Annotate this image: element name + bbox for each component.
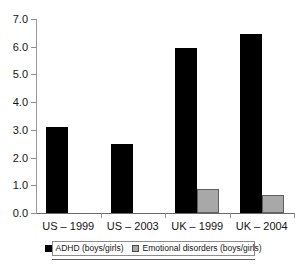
x-axis-category-label: US – 2003 bbox=[101, 220, 166, 232]
grey-square-icon bbox=[132, 245, 139, 252]
y-axis-tick-label: 1.0 bbox=[0, 180, 28, 191]
y-axis-tick-label: 5.0 bbox=[0, 69, 28, 80]
bar-adhd bbox=[46, 127, 68, 213]
black-square-icon bbox=[45, 245, 52, 252]
x-axis-tick bbox=[294, 213, 295, 218]
x-axis-category-label: UK – 1999 bbox=[165, 220, 230, 232]
footer-rule bbox=[52, 259, 255, 260]
legend-entry-emotional-disorders: Emotional disorders (boys/girls) bbox=[132, 244, 261, 253]
bar-adhd bbox=[111, 144, 133, 213]
x-axis-tick bbox=[165, 213, 166, 218]
x-axis-category-label: US – 1999 bbox=[36, 220, 101, 232]
x-axis-tick bbox=[101, 213, 102, 218]
y-axis-tick-label: 3.0 bbox=[0, 125, 28, 136]
chart-legend: ADHD (boys/girls) Emotional disorders (b… bbox=[52, 241, 255, 256]
legend-label-emotional-disorders: Emotional disorders (boys/girls) bbox=[142, 244, 261, 253]
y-axis-tick-label: 6.0 bbox=[0, 42, 28, 53]
y-axis-tick-label: 4.0 bbox=[0, 97, 28, 108]
plot-area bbox=[36, 19, 294, 213]
bar-adhd bbox=[175, 48, 197, 213]
y-axis-tick-label: 7.0 bbox=[0, 14, 28, 25]
bar-adhd bbox=[240, 34, 262, 213]
legend-entry-adhd: ADHD (boys/girls) bbox=[45, 244, 123, 253]
x-axis-category-label: UK – 2004 bbox=[230, 220, 295, 232]
legend-label-adhd: ADHD (boys/girls) bbox=[55, 244, 123, 253]
x-axis-tick bbox=[230, 213, 231, 218]
bar-emotional-disorders bbox=[197, 189, 219, 213]
y-axis-tick-label: 2.0 bbox=[0, 153, 28, 164]
bar-chart: 0.01.02.03.04.05.06.07.0 US – 1999US – 2… bbox=[0, 0, 304, 272]
y-axis-tick bbox=[31, 213, 37, 214]
bar-emotional-disorders bbox=[262, 195, 284, 213]
y-axis-tick-label: 0.0 bbox=[0, 208, 28, 219]
